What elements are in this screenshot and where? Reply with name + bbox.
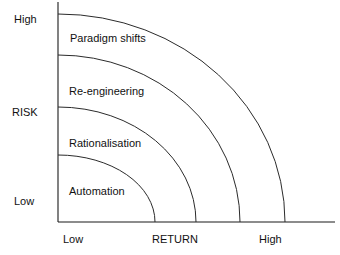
zone-label-paradigm-shifts: Paradigm shifts: [70, 32, 146, 44]
y-axis-high-label: High: [14, 13, 37, 25]
y-axis-low-label: Low: [14, 195, 34, 207]
diagram-canvas: High RISK Low Low RETURN High Automation…: [0, 0, 340, 255]
x-axis-title: RETURN: [152, 233, 198, 245]
risk-return-svg: [0, 0, 340, 255]
zone-label-rationalisation: Rationalisation: [69, 137, 141, 149]
zone-label-automation: Automation: [69, 185, 125, 197]
zone-label-re-engineering: Re-engineering: [69, 85, 144, 97]
x-axis-high-label: High: [259, 233, 282, 245]
zone-arc-rationalisation: [58, 107, 196, 222]
x-axis-low-label: Low: [63, 233, 83, 245]
y-axis-title: RISK: [12, 106, 38, 118]
